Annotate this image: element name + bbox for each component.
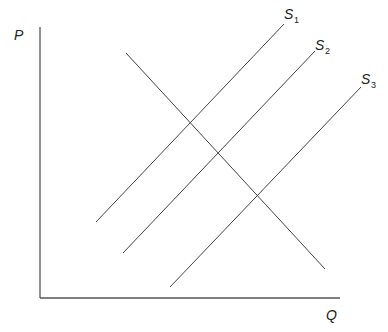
label-s1: S 1: [284, 6, 299, 25]
svg-text:1: 1: [294, 15, 299, 25]
svg-text:S: S: [284, 6, 294, 22]
svg-text:2: 2: [325, 46, 330, 56]
label-s2: S 2: [315, 37, 330, 56]
supply-curve-s1: [96, 24, 284, 222]
supply-curve-s3: [170, 87, 361, 287]
svg-text:S: S: [315, 37, 325, 53]
svg-text:S: S: [361, 71, 371, 87]
svg-text:3: 3: [371, 80, 376, 90]
x-axis-label: Q: [326, 307, 337, 323]
y-axis-label: P: [14, 27, 24, 43]
label-s3: S 3: [361, 71, 376, 90]
supply-demand-diagram: P Q S 1 S 2 S 3: [0, 0, 388, 332]
